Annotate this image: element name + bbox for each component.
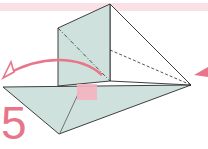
right-face	[110, 4, 191, 85]
hold-point-mark	[77, 84, 97, 100]
fold-over-arrowhead-icon	[3, 62, 14, 78]
step-number: 5	[1, 100, 27, 146]
push-arrow-icon	[194, 67, 208, 77]
origami-diagram	[0, 0, 208, 149]
